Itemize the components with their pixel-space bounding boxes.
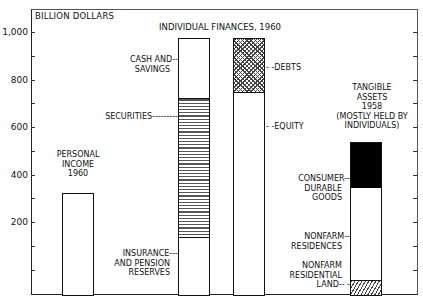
ytick-400: 400	[0, 170, 28, 180]
segment-residential-land	[351, 280, 381, 295]
segment-securities	[179, 98, 209, 238]
income-label: PERSONALINCOME1960	[52, 150, 104, 179]
bar-individual-assets	[178, 38, 210, 296]
bar-personal-income	[62, 193, 94, 296]
bar-debts-equity	[233, 38, 265, 296]
ytick-200: 200	[0, 217, 28, 227]
y-axis-unit-label: BILLION DOLLARS	[35, 11, 114, 21]
ytick-600: 600	[0, 122, 28, 132]
tangible-assets-label: TANGIBLEASSETS1958(MOSTLY HELD BYINDIVID…	[322, 83, 422, 131]
ytick-800: 800	[0, 75, 28, 85]
debts-label: - -DEBTS	[266, 63, 301, 73]
segment-consumer-durables	[351, 143, 381, 188]
consumer-durables-label: CONSUMER--DURABLEGOODS	[290, 174, 350, 203]
bar-tangible-assets	[350, 142, 382, 296]
insurance-pension-label: INSURANCE---AND PENSIONRESERVES	[100, 249, 178, 278]
ytick-1000: 1,000	[0, 27, 28, 37]
equity-label: - -EQUITY	[266, 122, 304, 132]
finances-title: INDIVIDUAL FINANCES, 1960	[150, 23, 290, 33]
nonfarm-residences-label: NONFARM--RESIDENCES	[290, 232, 350, 251]
cash-savings-label: CASH AND--SAVINGS	[110, 55, 178, 74]
residential-land-label: NONFARMRESIDENTIALLAND-- -	[280, 261, 350, 290]
segment-debts	[234, 39, 264, 93]
securities-label: SECURITIES---------	[100, 112, 178, 122]
